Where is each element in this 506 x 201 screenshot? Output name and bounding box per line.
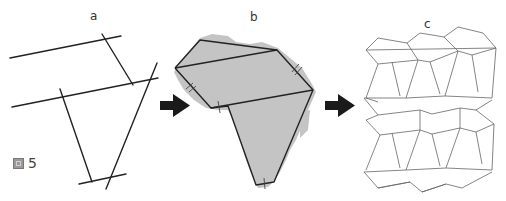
tessellation — [364, 27, 496, 192]
africa-silhouette — [174, 34, 316, 188]
arrow-right-icon-2 — [325, 94, 355, 117]
panel-a-lines — [10, 34, 158, 189]
diagram-canvas — [0, 0, 506, 201]
arrow-right-icon-1 — [160, 94, 190, 117]
